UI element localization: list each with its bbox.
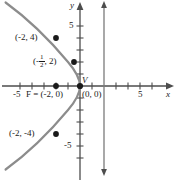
one-half-fraction: 12	[39, 54, 45, 69]
y-tick-label--5: -5	[64, 141, 72, 150]
point-label-upper: (-2, 4)	[15, 33, 38, 42]
point-label-near-vertex: (-12, 2)	[33, 54, 57, 69]
x-tick-label-5: 5	[138, 90, 143, 99]
point-label-lower: (-2, -4)	[9, 129, 35, 138]
x-axis-label: x	[166, 90, 170, 99]
directrix-line	[101, 1, 107, 176]
focus-label: F = (-2, 0)	[26, 90, 63, 99]
fraction-denominator: 2	[39, 62, 45, 69]
y-axis-label: y	[70, 1, 74, 10]
parabola-figure: x y -5 5 5 -5 (-2, 4) (-12, 2) F = (-2, …	[0, 0, 177, 183]
point-marker-upper	[53, 35, 59, 41]
point-marker-near-vertex	[71, 59, 77, 65]
vertex-label: (0, 0)	[82, 90, 102, 99]
vertex-marker-label: V	[82, 76, 88, 85]
y-tick-label-5: 5	[69, 21, 74, 30]
x-tick-label--5: -5	[13, 90, 21, 99]
point-label-near-vertex-suffix: , 2)	[45, 56, 57, 66]
point-marker-lower	[53, 131, 59, 137]
